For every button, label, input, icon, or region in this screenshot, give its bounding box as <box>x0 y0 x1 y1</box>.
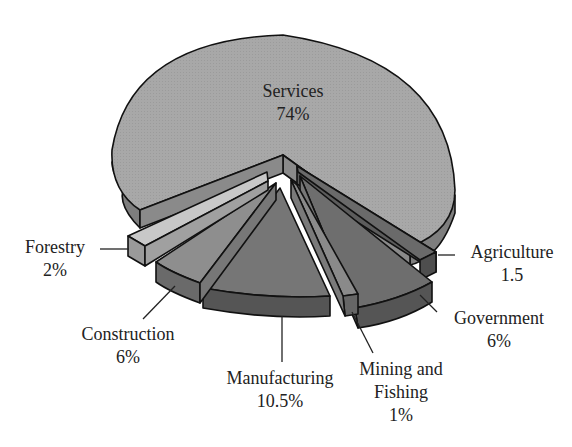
label-manufacturing-name: Manufacturing <box>210 367 350 390</box>
label-services-value: 74% <box>238 103 348 126</box>
label-forestry: Forestry 2% <box>10 236 100 282</box>
label-government-value: 6% <box>434 330 564 353</box>
label-forestry-name: Forestry <box>10 236 100 259</box>
label-government-name: Government <box>434 307 564 330</box>
label-construction-name: Construction <box>68 323 188 346</box>
label-construction-value: 6% <box>68 346 188 369</box>
label-services: Services 74% <box>238 80 348 126</box>
label-forestry-value: 2% <box>10 259 100 282</box>
label-services-name: Services <box>238 80 348 103</box>
label-agriculture-value: 1.5 <box>452 264 572 287</box>
label-manufacturing: Manufacturing 10.5% <box>210 367 350 413</box>
label-mining-name-line2: Fishing <box>346 381 456 404</box>
label-government: Government 6% <box>434 307 564 353</box>
label-mining-value: 1% <box>346 404 456 427</box>
label-mining-fishing: Mining and Fishing 1% <box>346 358 456 427</box>
label-manufacturing-value: 10.5% <box>210 390 350 413</box>
label-agriculture-name: Agriculture <box>452 241 572 264</box>
label-agriculture: Agriculture 1.5 <box>452 241 572 287</box>
label-construction: Construction 6% <box>68 323 188 369</box>
label-mining-name-line1: Mining and <box>346 358 456 381</box>
